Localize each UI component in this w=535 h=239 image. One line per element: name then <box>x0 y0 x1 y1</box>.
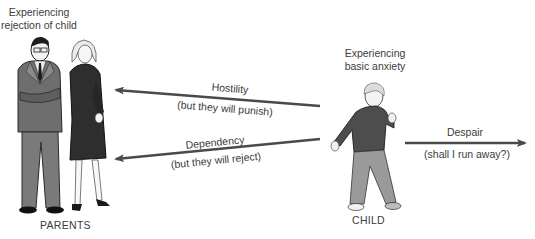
parents-caption: PARENTS <box>40 219 91 231</box>
despair-sublabel: (shall I run away?) <box>412 148 522 161</box>
diagram-canvas <box>0 0 535 239</box>
father-figure <box>18 37 64 214</box>
mother-figure <box>70 40 110 211</box>
parents-heading: Experiencing rejection of child <box>0 6 78 32</box>
child-heading: Experiencing basic anxiety <box>333 47 417 73</box>
parents-heading-line1: Experiencing <box>0 6 78 19</box>
child-figure <box>331 83 401 211</box>
child-caption: CHILD <box>352 214 385 226</box>
parents-heading-line2: rejection of child <box>0 19 78 32</box>
child-heading-line2: basic anxiety <box>333 60 417 73</box>
child-heading-line1: Experiencing <box>333 47 417 60</box>
despair-label: Despair <box>430 126 500 139</box>
